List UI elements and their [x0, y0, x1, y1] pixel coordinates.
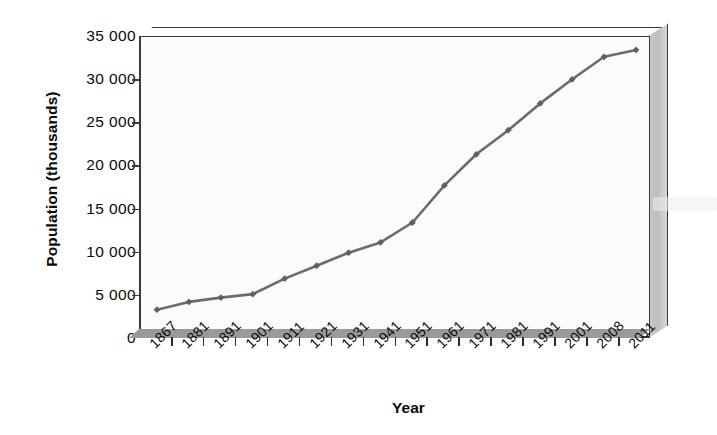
- y-tick-mark: [132, 165, 139, 167]
- data-point-marker: [345, 249, 352, 256]
- population-series: [141, 37, 652, 339]
- y-tick-mark: [132, 252, 139, 254]
- y-tick-label: 15 000: [86, 200, 136, 218]
- y-tick-mark: [132, 79, 139, 81]
- y-tick-label: 30 000: [86, 70, 136, 88]
- y-tick-mark: [132, 295, 139, 297]
- data-point-marker: [154, 306, 161, 313]
- plot-area: [139, 27, 668, 338]
- y-tick-mark: [132, 209, 139, 211]
- data-point-marker: [633, 47, 640, 54]
- chart-plot-face: [139, 36, 650, 338]
- x-axis-title: Year: [0, 399, 697, 417]
- x-axis-tick-labels: 1867188118911901191119211931194119511961…: [0, 340, 697, 400]
- y-tick-label: 35 000: [86, 27, 136, 45]
- y-tick-label: 25 000: [86, 113, 136, 131]
- data-point-marker: [217, 294, 224, 301]
- y-tick-label: 20 000: [86, 156, 136, 174]
- y-tick-label: 5 000: [95, 286, 136, 304]
- y-tick-mark: [132, 122, 139, 124]
- paper-smudge: [653, 197, 717, 211]
- y-tick-label: 10 000: [86, 243, 136, 261]
- data-point-marker: [186, 298, 193, 305]
- x-axis-title-text: Year: [392, 399, 425, 416]
